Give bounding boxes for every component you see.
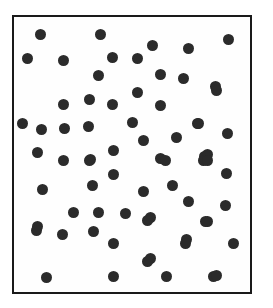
plot-frame (12, 15, 252, 294)
figure-canvas: Random dot pattern Filled circular marke… (0, 0, 273, 308)
figure-description: Filled circular markers scattered unifor… (0, 0, 1, 1)
figure-title: Random dot pattern (0, 0, 1, 1)
